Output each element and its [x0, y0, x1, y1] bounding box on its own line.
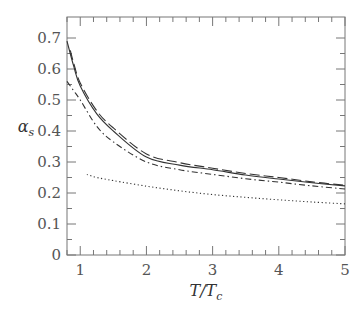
x-tick-label: 3	[208, 261, 218, 279]
axis-ticks	[67, 17, 345, 255]
y-tick-label: 0.2	[37, 184, 61, 202]
x-tick-label: 1	[75, 261, 85, 279]
y-tick-label: 0.6	[37, 60, 61, 78]
dash-dot-curve	[67, 81, 345, 189]
y-tick-label: 0.5	[37, 91, 61, 109]
plot-frame	[67, 17, 345, 255]
x-axis-label: T/Tc	[190, 281, 223, 303]
y-axis-label: αs	[18, 117, 35, 139]
x-tick-label: 5	[340, 261, 350, 279]
y-tick-label: 0.3	[37, 153, 61, 171]
y-tick-label: 0	[51, 246, 61, 264]
tick-labels: 1234500.10.20.30.40.50.60.7	[37, 29, 350, 279]
data-curves	[67, 41, 345, 204]
x-tick-label: 4	[274, 261, 284, 279]
x-tick-label: 2	[142, 261, 152, 279]
y-tick-label: 0.7	[37, 29, 61, 47]
y-tick-label: 0.1	[37, 215, 61, 233]
dotted-curve	[87, 174, 345, 203]
alpha-s-vs-temperature-chart: 1234500.10.20.30.40.50.60.7 T/Tc αs	[0, 0, 363, 313]
y-tick-label: 0.4	[37, 122, 61, 140]
solid-curve	[67, 41, 345, 186]
dashed-curve	[70, 50, 345, 185]
